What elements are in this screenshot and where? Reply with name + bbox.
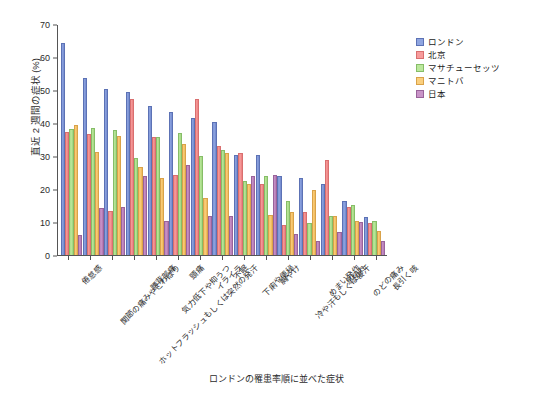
bar <box>229 216 233 255</box>
x-tick-mark <box>376 256 377 260</box>
x-tick-mark <box>178 256 179 260</box>
x-tick-label: 頭痛 <box>187 262 206 281</box>
bar <box>208 216 212 255</box>
legend-label: 北京 <box>428 51 446 60</box>
legend-swatch-icon <box>416 64 424 72</box>
legend-label: マサチューセッツ <box>428 64 500 73</box>
chart-figure: 010203040506070 直近 2 週間の症状 (%) 倦怠感関節の痛みや… <box>0 0 553 403</box>
bar-group <box>61 25 82 255</box>
bar <box>359 222 363 255</box>
bar <box>99 208 103 255</box>
x-tick-label: 倦怠感 <box>79 262 104 287</box>
legend-label: ロンドン <box>428 38 464 47</box>
x-tick-mark <box>310 256 311 260</box>
x-tick-mark <box>354 256 355 260</box>
y-tick-label: 0 <box>0 251 57 261</box>
bar-group <box>126 25 147 255</box>
bar <box>273 175 277 255</box>
x-tick-mark <box>222 256 223 260</box>
bar <box>251 176 255 256</box>
x-tick-mark <box>332 256 333 260</box>
x-tick-mark <box>244 256 245 260</box>
plot-area <box>57 25 387 256</box>
legend: ロンドン北京マサチューセッツマニトバ日本 <box>416 38 500 99</box>
bar <box>186 165 190 255</box>
bar <box>381 241 385 255</box>
bar <box>164 221 168 255</box>
x-tick-mark <box>156 256 157 260</box>
y-tick-mark <box>53 190 57 191</box>
x-tick-mark <box>90 256 91 260</box>
x-tick-mark <box>288 256 289 260</box>
bar-group <box>191 25 212 255</box>
legend-swatch-icon <box>416 77 424 85</box>
chart-title: ロンドンの罹患率順に並べた症状 <box>0 372 553 385</box>
bar <box>78 235 82 255</box>
bar-group <box>83 25 104 255</box>
bar-group <box>342 25 363 255</box>
bar-group <box>169 25 190 255</box>
bar-group <box>299 25 320 255</box>
y-tick-mark <box>53 91 57 92</box>
y-tick-mark <box>53 25 57 26</box>
x-tick-mark <box>112 256 113 260</box>
bar <box>316 241 320 255</box>
bar-group <box>256 25 277 255</box>
x-tick-mark <box>266 256 267 260</box>
bar-group <box>234 25 255 255</box>
x-tick-mark <box>134 256 135 260</box>
legend-item[interactable]: マサチューセッツ <box>416 64 500 73</box>
y-tick-mark <box>53 58 57 59</box>
y-axis-title: 直近 2 週間の症状 (%) <box>28 0 42 222</box>
bar-group <box>277 25 298 255</box>
bar <box>121 207 125 255</box>
legend-swatch-icon <box>416 51 424 59</box>
legend-item[interactable]: ロンドン <box>416 38 500 47</box>
bar-group <box>364 25 385 255</box>
bar-group <box>321 25 342 255</box>
bar <box>294 234 298 255</box>
y-tick-mark <box>53 223 57 224</box>
bar <box>337 232 341 255</box>
legend-label: マニトバ <box>428 77 464 86</box>
x-tick-mark <box>68 256 69 260</box>
y-tick-mark <box>53 256 57 257</box>
bar-group <box>148 25 169 255</box>
legend-item[interactable]: 日本 <box>416 90 500 99</box>
legend-swatch-icon <box>416 38 424 46</box>
y-tick-mark <box>53 124 57 125</box>
legend-item[interactable]: マニトバ <box>416 77 500 86</box>
legend-item[interactable]: 北京 <box>416 51 500 60</box>
bar-group <box>104 25 125 255</box>
y-tick-mark <box>53 157 57 158</box>
legend-label: 日本 <box>428 90 446 99</box>
bar-groups <box>58 25 387 255</box>
x-tick-label: 胸やけ <box>277 262 302 287</box>
bar <box>143 176 147 255</box>
legend-swatch-icon <box>416 90 424 98</box>
bar-group <box>212 25 233 255</box>
x-tick-mark <box>200 256 201 260</box>
